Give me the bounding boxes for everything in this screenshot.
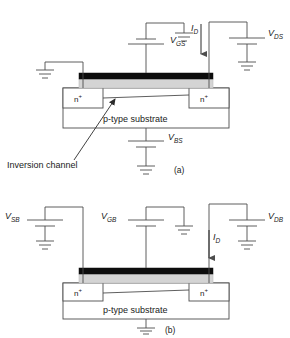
source-region-a bbox=[63, 88, 103, 108]
panel-a-caption: (a) bbox=[174, 166, 184, 175]
ground-body-b bbox=[137, 328, 155, 334]
battery-vsb-b bbox=[27, 220, 63, 241]
gate-oxide-a bbox=[79, 79, 213, 88]
battery-vds-a bbox=[229, 38, 265, 62]
ground-vgb-b bbox=[175, 226, 193, 234]
substrate-label-b: p-type substrate bbox=[103, 306, 168, 315]
nplus-source-label-b: n+ bbox=[74, 287, 82, 298]
ground-vds-a bbox=[238, 62, 256, 70]
vgb-label: VGB bbox=[101, 212, 116, 223]
vds-top-wire-a bbox=[209, 22, 247, 38]
drain-region-b bbox=[189, 283, 229, 301]
source-region-b bbox=[63, 283, 103, 301]
ground-vbs-a bbox=[137, 166, 155, 174]
battery-vbs-a bbox=[128, 141, 164, 166]
vdb-label: VDB bbox=[268, 212, 283, 223]
vbs-label: VBS bbox=[168, 133, 183, 144]
vds-label: VDS bbox=[268, 29, 283, 40]
battery-vgb-b bbox=[128, 207, 164, 232]
source-lead-a bbox=[45, 62, 83, 88]
battery-vgs-a bbox=[128, 23, 164, 55]
ground-source-a bbox=[36, 70, 54, 78]
ground-vsb-b bbox=[36, 241, 54, 249]
nplus-drain-label-b: n+ bbox=[200, 287, 208, 298]
vgs-loop-wire-a bbox=[146, 23, 184, 33]
battery-vdb-b bbox=[229, 220, 265, 241]
gate-metal-a bbox=[79, 73, 213, 79]
vdb-top-wire-b bbox=[209, 204, 247, 220]
id-label-a: ID bbox=[191, 24, 198, 35]
vgb-loop-wire-b bbox=[146, 207, 184, 226]
panel-b-caption: (b) bbox=[165, 326, 175, 335]
vgs-label: VGS bbox=[170, 36, 185, 47]
gate-metal-b bbox=[79, 268, 213, 274]
nplus-source-label-a: n+ bbox=[74, 93, 82, 104]
gate-oxide-b bbox=[79, 274, 213, 283]
ground-vdb-b bbox=[238, 241, 256, 249]
mosfet-biasing-figure: VGS VDS ID VBS n+ n+ p-type substrate In… bbox=[0, 0, 290, 338]
vsb-label: VSB bbox=[5, 212, 20, 223]
nplus-drain-label-a: n+ bbox=[200, 93, 208, 104]
inversion-channel-label: Inversion channel bbox=[7, 161, 78, 170]
drain-region-a bbox=[189, 88, 229, 108]
substrate-label-a: p-type substrate bbox=[103, 115, 168, 124]
id-label-b: ID bbox=[213, 233, 220, 244]
